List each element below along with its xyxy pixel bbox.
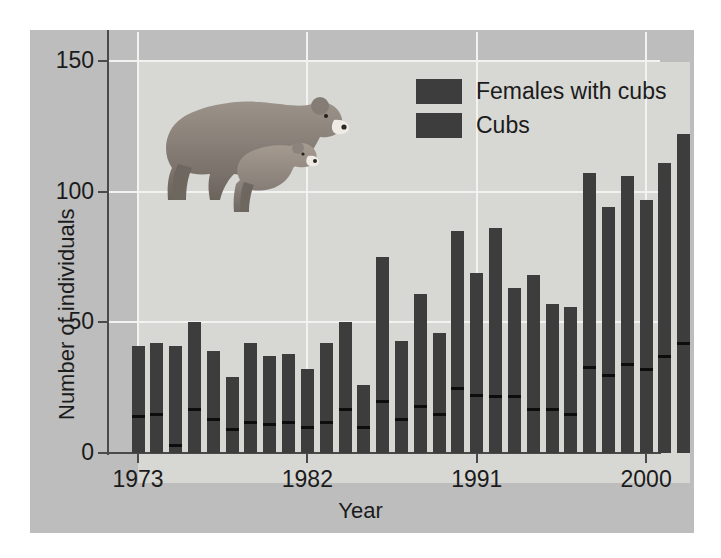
bar-1995: [546, 304, 559, 453]
bar-2001: [658, 163, 671, 453]
gridline-y-150: [109, 60, 660, 62]
legend-swatch-females-with-cubs: [416, 79, 462, 104]
bar-stack-divider-1974: [150, 413, 163, 416]
bar-1987: [395, 341, 408, 453]
legend-swatch-cubs: [416, 113, 462, 138]
bar-stack-divider-1995: [546, 408, 559, 411]
y-tick-label-wrap-100: 100: [0, 180, 94, 203]
bar-1999: [621, 176, 634, 453]
bar-1986: [376, 257, 389, 453]
bar-stack-divider-2002: [677, 342, 690, 345]
bar-stack-divider-1985: [357, 426, 370, 429]
bar-1983: [320, 343, 333, 453]
y-tick-label-150: 150: [0, 49, 94, 72]
bar-stack-divider-1978: [226, 428, 239, 431]
bar-stack-divider-1975: [169, 444, 182, 447]
y-tick-150: [98, 60, 107, 62]
x-axis-title: Year: [0, 498, 721, 524]
chart-legend: Females with cubs Cubs: [416, 78, 666, 146]
bar-stack-divider-1998: [602, 374, 615, 377]
bar-1998: [602, 207, 615, 453]
bar-1993: [508, 288, 521, 453]
bar-stack-divider-1991: [470, 394, 483, 397]
bar-1990: [451, 231, 464, 453]
bar-1988: [414, 294, 427, 453]
bar-stack-divider-1999: [621, 363, 634, 366]
x-tick-label-2000: 2000: [621, 466, 672, 493]
x-tick-2000: [645, 453, 647, 463]
bar-stack-divider-1982: [301, 426, 314, 429]
bar-stack-divider-1984: [339, 408, 352, 411]
figure-canvas: 050100150 1973198219912000 Females with …: [0, 0, 721, 558]
bar-stack-divider-1989: [433, 413, 446, 416]
bear-illustration-icon: [148, 72, 368, 222]
y-tick-100: [98, 191, 107, 193]
bar-stack-divider-1979: [244, 421, 257, 424]
x-tick-label-1973: 1973: [112, 466, 163, 493]
bar-1991: [470, 273, 483, 453]
bar-1984: [339, 322, 352, 453]
x-tick-1982: [306, 453, 308, 463]
bar-1982: [301, 369, 314, 453]
bar-1996: [564, 307, 577, 453]
x-tick-1973: [137, 453, 139, 463]
bar-stack-divider-1988: [414, 405, 427, 408]
bar-stack-divider-1980: [263, 423, 276, 426]
y-tick-label-0: 0: [0, 441, 94, 464]
bar-1973: [132, 346, 145, 453]
legend-item-females-with-cubs: Females with cubs: [416, 78, 666, 105]
bar-1989: [433, 333, 446, 453]
bar-stack-divider-2000: [640, 368, 653, 371]
y-tick-0: [98, 452, 107, 454]
bar-stack-divider-1987: [395, 418, 408, 421]
bar-1977: [207, 351, 220, 453]
bar-stack-divider-1977: [207, 418, 220, 421]
bar-stack-divider-1992: [489, 395, 502, 398]
y-tick-50: [98, 321, 107, 323]
bar-1981: [282, 354, 295, 453]
legend-label-cubs: Cubs: [476, 112, 530, 139]
y-axis-title: Number of individuals: [54, 208, 80, 420]
bar-stack-divider-1973: [132, 415, 145, 418]
x-tick-label-1982: 1982: [282, 466, 333, 493]
bar-1985: [357, 385, 370, 453]
bar-stack-divider-1996: [564, 413, 577, 416]
y-tick-label-100: 100: [0, 180, 94, 203]
bar-1974: [150, 343, 163, 453]
bar-stack-divider-1986: [376, 400, 389, 403]
bar-2002: [677, 134, 690, 453]
bar-1976: [188, 322, 201, 453]
bar-stack-divider-1976: [188, 408, 201, 411]
bar-stack-divider-2001: [658, 355, 671, 358]
bar-2000: [640, 200, 653, 453]
y-axis-line: [107, 30, 109, 455]
bar-stack-divider-1994: [527, 408, 540, 411]
legend-item-cubs: Cubs: [416, 112, 666, 139]
bar-1979: [244, 343, 257, 453]
x-tick-label-1991: 1991: [451, 466, 502, 493]
legend-label-females-with-cubs: Females with cubs: [476, 78, 666, 105]
bar-1980: [263, 356, 276, 453]
bar-1978: [226, 377, 239, 453]
bar-1975: [169, 346, 182, 453]
bar-1997: [583, 173, 596, 453]
bar-stack-divider-1993: [508, 395, 521, 398]
bar-stack-divider-1997: [583, 366, 596, 369]
y-tick-label-wrap-0: 0: [0, 441, 94, 464]
x-tick-1991: [476, 453, 478, 463]
bar-1994: [527, 275, 540, 453]
bar-stack-divider-1990: [451, 387, 464, 390]
bar-stack-divider-1983: [320, 421, 333, 424]
bar-1992: [489, 228, 502, 453]
bar-stack-divider-1981: [282, 421, 295, 424]
y-tick-label-wrap-150: 150: [0, 49, 94, 72]
